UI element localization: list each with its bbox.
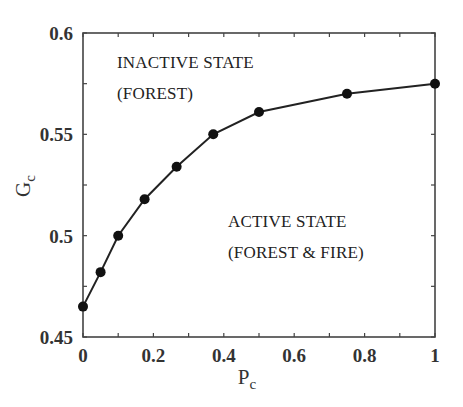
data-point-marker [208,129,218,139]
annotation-active-forest-fire: (FOREST & FIRE) [228,243,364,262]
data-point-marker [78,302,88,312]
data-point-marker [113,231,123,241]
data-point-marker [254,107,264,117]
data-point-marker [96,267,106,277]
y-tick-label: 0.6 [49,23,73,44]
data-point-marker [172,162,182,172]
x-axis-ticks: 00.20.40.60.81 [78,33,440,366]
annotation-inactive-state: INACTIVE STATE [117,53,254,72]
x-tick-label: 0.6 [282,345,306,366]
series-line [83,84,435,307]
plot-frame [83,33,435,337]
y-tick-label: 0.5 [49,226,73,247]
y-axis-title: Gc [11,175,38,197]
data-point-marker [342,89,352,99]
x-tick-label: 0.2 [142,345,166,366]
data-point-marker [430,79,440,89]
y-tick-label: 0.55 [40,124,73,145]
annotation-active-state: ACTIVE STATE [228,212,347,231]
axes-box [83,33,435,337]
data-point-marker [140,194,150,204]
y-tick-label: 0.45 [40,327,73,348]
data-series [78,79,440,312]
chart: 00.20.40.60.81 0.450.50.550.6 Pc Gc INAC… [0,0,463,407]
annotation-inactive-forest: (FOREST) [117,84,193,103]
x-tick-label: 0.8 [353,345,377,366]
x-axis-title: Pc [238,365,257,392]
x-tick-label: 0 [78,345,88,366]
x-tick-label: 0.4 [212,345,236,366]
x-tick-label: 1 [430,345,440,366]
